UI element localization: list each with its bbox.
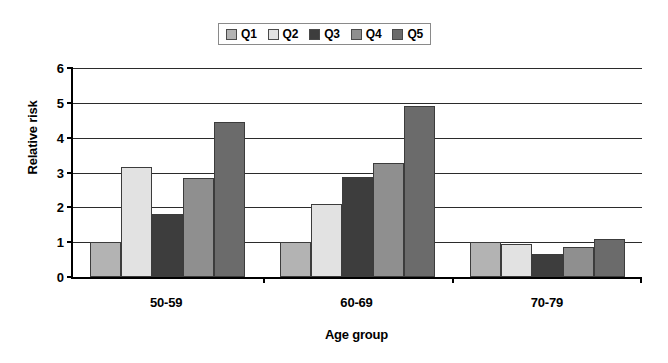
bar-60-69-q1[interactable] bbox=[280, 242, 311, 277]
y-axis-title: Relative risk bbox=[25, 68, 40, 208]
legend-label-q5: Q5 bbox=[407, 28, 423, 40]
legend-label-q2: Q2 bbox=[283, 28, 299, 40]
y-tick-label-3: 3 bbox=[57, 166, 64, 179]
x-tick-label-50-59: 50-59 bbox=[71, 295, 261, 310]
bar-60-69-q4[interactable] bbox=[373, 163, 404, 277]
bar-group-70-79 bbox=[452, 68, 642, 277]
bar-60-69-q3[interactable] bbox=[342, 177, 373, 277]
y-tick-label-5: 5 bbox=[57, 96, 64, 109]
bar-70-79-q3[interactable] bbox=[532, 254, 563, 277]
bar-70-79-q4[interactable] bbox=[563, 247, 594, 277]
legend-swatch-q3 bbox=[309, 29, 320, 40]
bar-50-59-q1[interactable] bbox=[90, 242, 121, 277]
bar-50-59-q5[interactable] bbox=[214, 122, 245, 277]
legend-item-q4[interactable]: Q4 bbox=[351, 28, 382, 40]
y-tick-label-2: 2 bbox=[57, 201, 64, 214]
plot-area: 0123456 bbox=[71, 68, 642, 279]
y-tick-label-1: 1 bbox=[57, 236, 64, 249]
legend-label-q4: Q4 bbox=[366, 28, 382, 40]
bar-60-69-q5[interactable] bbox=[404, 106, 435, 277]
legend-swatch-q1 bbox=[226, 29, 237, 40]
legend-item-q1[interactable]: Q1 bbox=[226, 28, 257, 40]
bar-70-79-q1[interactable] bbox=[470, 242, 501, 277]
bar-60-69-q2[interactable] bbox=[311, 204, 342, 277]
bar-70-79-q5[interactable] bbox=[594, 239, 625, 277]
y-tick-label-6: 6 bbox=[57, 62, 64, 75]
x-tick-separator-end bbox=[640, 277, 642, 283]
y-tick-label-4: 4 bbox=[57, 131, 64, 144]
bar-50-59-q2[interactable] bbox=[121, 167, 152, 277]
bar-groups bbox=[73, 68, 642, 277]
legend-swatch-q5 bbox=[392, 29, 403, 40]
bar-50-59-q3[interactable] bbox=[152, 214, 183, 277]
legend-label-q3: Q3 bbox=[324, 28, 340, 40]
x-tick-separator-2 bbox=[452, 277, 454, 283]
x-tick-separator-1 bbox=[263, 277, 265, 283]
x-tick-label-60-69: 60-69 bbox=[261, 295, 451, 310]
bar-50-59-q4[interactable] bbox=[183, 178, 214, 277]
x-tick-label-70-79: 70-79 bbox=[452, 295, 642, 310]
y-tick-label-0: 0 bbox=[57, 271, 64, 284]
legend-swatch-q2 bbox=[268, 29, 279, 40]
bar-chart-figure: Q1Q2Q3Q4Q5 Relative risk 0123456 50-5960… bbox=[0, 0, 668, 363]
bar-70-79-q2[interactable] bbox=[501, 244, 532, 277]
legend-item-q3[interactable]: Q3 bbox=[309, 28, 340, 40]
legend-item-q5[interactable]: Q5 bbox=[392, 28, 423, 40]
bar-group-50-59 bbox=[73, 68, 263, 277]
x-axis-tick-labels: 50-5960-6970-79 bbox=[71, 295, 642, 310]
legend-item-q2[interactable]: Q2 bbox=[268, 28, 299, 40]
bar-group-60-69 bbox=[263, 68, 453, 277]
chart-legend: Q1Q2Q3Q4Q5 bbox=[218, 23, 431, 45]
legend-label-q1: Q1 bbox=[241, 28, 257, 40]
legend-swatch-q4 bbox=[351, 29, 362, 40]
x-axis-title: Age group bbox=[71, 327, 642, 342]
